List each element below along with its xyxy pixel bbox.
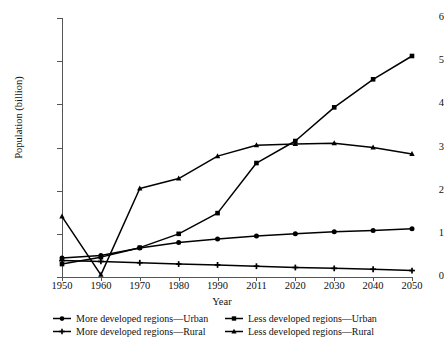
legend-label: Less developed regions—Urban <box>248 313 377 324</box>
legend-row-2: More developed regions—Rural Less develo… <box>50 326 394 337</box>
series-3 <box>59 140 414 277</box>
legend-marker-square-icon <box>222 313 248 324</box>
series-layer <box>0 0 444 350</box>
legend-item-more-developed-rural[interactable]: More developed regions—Rural <box>50 326 222 337</box>
legend-label: More developed regions—Urban <box>76 313 208 324</box>
legend-marker-plus-icon <box>50 326 76 337</box>
legend-marker-circle-icon <box>50 313 76 324</box>
legend-item-more-developed-urban[interactable]: More developed regions—Urban <box>50 313 222 324</box>
population-line-chart: 0123456 19501960197019801990201120202030… <box>0 0 444 350</box>
series-2 <box>60 54 415 267</box>
series-0 <box>60 226 415 260</box>
legend-row-1: More developed regions—Urban Less develo… <box>50 313 394 324</box>
chart-legend: More developed regions—Urban Less develo… <box>0 313 444 337</box>
legend-item-less-developed-rural[interactable]: Less developed regions—Rural <box>222 326 394 337</box>
legend-label: More developed regions—Rural <box>76 326 205 337</box>
legend-item-less-developed-urban[interactable]: Less developed regions—Urban <box>222 313 394 324</box>
legend-marker-triangle-icon <box>222 326 248 337</box>
series-1 <box>59 258 415 274</box>
legend-label: Less developed regions—Rural <box>248 326 374 337</box>
